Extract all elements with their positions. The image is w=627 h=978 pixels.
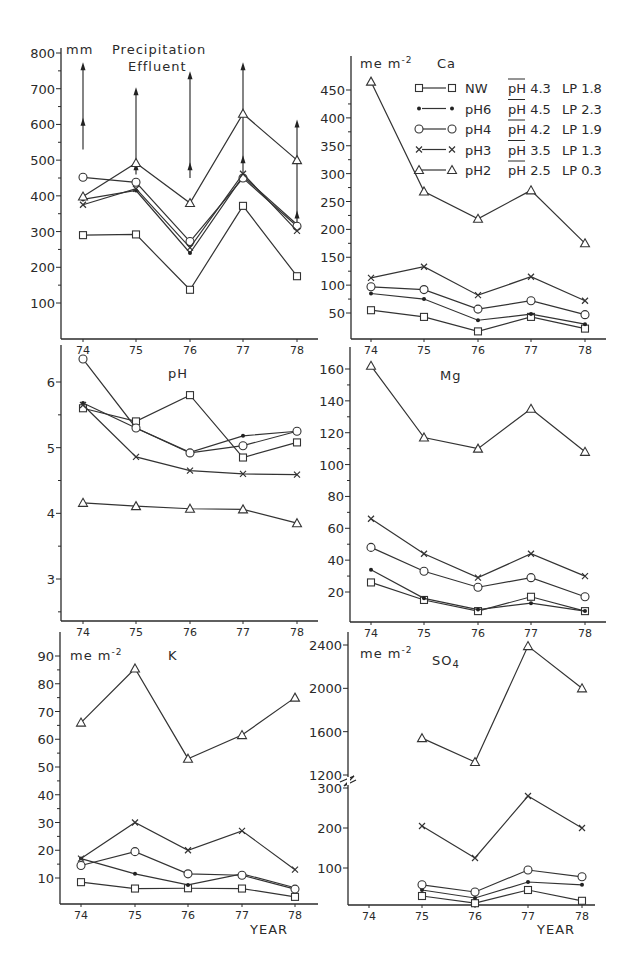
arrowhead-icon: [295, 211, 300, 219]
ph-marker-square: [240, 454, 247, 461]
ph-y-tick-label: 6: [47, 375, 55, 390]
k-marker-triangle: [291, 693, 300, 701]
mg-y-tick-label: 80: [327, 489, 344, 504]
ph-y-tick-label: 4: [47, 506, 55, 521]
precip-marker-circle: [132, 178, 140, 186]
mg-marker-dot: [476, 608, 480, 612]
ph-title: pH: [168, 366, 188, 381]
mg-y-tick-label: 60: [327, 521, 344, 536]
ca-marker-triangle: [527, 186, 536, 194]
legend-lp: LP 0.3: [562, 163, 602, 178]
legend-marker-square: [416, 85, 423, 92]
so4-marker-triangle: [471, 758, 480, 766]
ca-marker-square: [582, 325, 589, 332]
ph-x-tick-label: 75: [129, 626, 143, 639]
legend-mean-ph: pH 4.2: [508, 122, 551, 137]
legend-marker-dot: [450, 107, 454, 111]
precip-marker-triangle: [239, 109, 248, 117]
so4-y-tick-label: 300: [317, 781, 342, 796]
so4-marker-cross: [579, 825, 585, 831]
so4-x-tick-label: 78: [575, 910, 589, 923]
mg-title: Mg: [440, 368, 461, 383]
ca-marker-cross: [528, 274, 534, 280]
legend-marker-cross: [416, 147, 422, 153]
mg-marker-circle: [367, 543, 375, 551]
mg-marker-cross: [475, 575, 481, 581]
k-unit-label: me m-2: [70, 647, 122, 663]
so4-marker-circle: [524, 866, 532, 874]
ph-marker-square: [187, 392, 194, 399]
ca-y-tick-label: 200: [320, 222, 345, 237]
mg-x-tick-label: 77: [524, 627, 538, 640]
precip-unit-label: mm: [66, 42, 93, 57]
legend: NWpH 4.3LP 1.8pH6pH 4.5LP 2.3pH4pH 4.2LP…: [415, 79, 602, 178]
legend-item-ph6: pH6pH 4.5LP 2.3: [417, 100, 602, 117]
k-marker-square: [132, 885, 139, 892]
ca-marker-square: [368, 307, 375, 314]
precip-y-tick-label: 600: [30, 117, 55, 132]
ca-y-tick-label: 350: [320, 139, 345, 154]
legend-marker-dot: [417, 107, 421, 111]
ph-marker-dot: [241, 434, 245, 438]
mg-x-tick-label: 76: [471, 627, 485, 640]
k-marker-circle: [131, 848, 139, 856]
chart-panel-precip: 7475767778100200300400500600700800: [30, 46, 318, 357]
precip-marker-circle: [293, 222, 301, 230]
k-x-tick-label: 76: [181, 909, 195, 922]
so4-series-ph4: [418, 866, 586, 896]
chart-panel-k: 7475767778102030405060708090: [37, 632, 318, 922]
k-marker-dot: [133, 872, 137, 876]
k-x-tick-label: 78: [288, 909, 302, 922]
k-y-tick-label: 50: [37, 760, 54, 775]
ph-series-ph6: [81, 401, 299, 454]
ca-marker-triangle: [474, 214, 483, 222]
so4-y-tick-label: 2400: [309, 638, 342, 653]
precip-y-tick-label: 100: [30, 296, 55, 311]
k-marker-square: [78, 879, 85, 886]
k-x-tick-label: 77: [235, 909, 249, 922]
k-series-ph3: [78, 820, 298, 873]
legend-item-ph4: pH4pH 4.2LP 1.9: [415, 120, 602, 137]
k-y-tick-label: 60: [37, 732, 54, 747]
k-marker-circle: [238, 871, 246, 879]
legend-lp: LP 2.3: [562, 102, 602, 117]
legend-series-name: pH3: [465, 143, 491, 158]
mg-y-tick-label: 20: [327, 585, 344, 600]
ca-y-tick-label: 400: [320, 111, 345, 126]
k-marker-dot: [186, 883, 190, 887]
figure-panels: 7475767778100200300400500600700800747576…: [0, 0, 627, 978]
k-marker-circle: [184, 870, 192, 878]
mg-marker-cross: [421, 551, 427, 557]
ca-y-tick-label: 250: [320, 195, 345, 210]
ca-marker-dot: [422, 297, 426, 301]
ca-marker-dot: [529, 312, 533, 316]
so4-marker-square: [525, 887, 532, 894]
precip-marker-square: [294, 273, 301, 280]
mg-y-tick-label: 100: [319, 458, 344, 473]
k-marker-triangle: [184, 754, 193, 762]
ca-title: Ca: [437, 56, 456, 71]
ph-marker-square: [294, 439, 301, 446]
chart-panel-so4: 74757677781002003001200160020002400: [309, 632, 595, 923]
so4-x-tick-label: 75: [415, 910, 429, 923]
k-marker-square: [292, 893, 299, 900]
precip-y-tick-label: 300: [30, 225, 55, 240]
so4-year-label: YEAR: [536, 922, 575, 937]
mg-marker-triangle: [527, 404, 536, 412]
so4-marker-circle: [471, 888, 479, 896]
precip-marker-square: [133, 231, 140, 238]
k-year-label: YEAR: [249, 922, 288, 937]
precip-y-tick-label: 700: [30, 82, 55, 97]
precip-y-tick-label: 800: [30, 46, 55, 61]
mg-marker-circle: [474, 583, 482, 591]
arrowhead-icon: [241, 155, 246, 163]
so4-marker-cross: [525, 793, 531, 799]
mg-x-tick-label: 78: [578, 627, 592, 640]
so4-marker-cross: [472, 855, 478, 861]
k-marker-cross: [185, 847, 191, 853]
k-marker-circle: [77, 862, 85, 870]
precip-y-tick-label: 200: [30, 260, 55, 275]
legend-series-name: NW: [465, 81, 488, 96]
chart-panel-ph: 74757677783456: [47, 345, 318, 639]
legend-marker-cross: [449, 147, 455, 153]
